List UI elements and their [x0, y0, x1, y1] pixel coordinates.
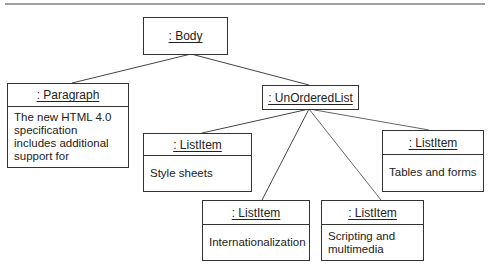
node-paragraph-text: The new HTML 4.0 specification includes … — [8, 107, 128, 168]
node-listitem-label: : ListItem — [232, 206, 281, 220]
node-listitem-text: Style sheets — [144, 156, 251, 185]
node-listitem-text: Tables and forms — [383, 155, 483, 184]
node-listitem-text: Internationalization — [203, 225, 309, 254]
edge-body-paragraph — [72, 54, 191, 83]
node-listitem-label: : ListItem — [348, 206, 397, 220]
node-paragraph: : Paragraph The new HTML 4.0 specificati… — [7, 83, 129, 168]
node-body: : Body — [143, 17, 228, 55]
node-listitem-stylesheets: : ListItem Style sheets — [143, 133, 252, 192]
edge-list-tables — [309, 109, 429, 130]
edge-list-stylesheets — [202, 109, 309, 133]
node-listitem-text: Scripting and multimedia — [322, 225, 423, 261]
edge-body-unorderedlist — [191, 54, 309, 85]
node-listitem-label: : ListItem — [409, 136, 458, 150]
node-paragraph-label: : Paragraph — [37, 88, 100, 102]
node-unorderedlist: : UnOrderedList — [262, 85, 359, 110]
node-listitem-tables: : ListItem Tables and forms — [382, 130, 484, 192]
node-listitem-scripting: : ListItem Scripting and multimedia — [321, 200, 424, 261]
node-listitem-intl: : ListItem Internationalization — [202, 200, 310, 261]
edge-list-intl — [262, 109, 309, 200]
node-listitem-label: : ListItem — [173, 138, 222, 152]
edge-list-scripting — [309, 109, 381, 200]
node-unorderedlist-label: : UnOrderedList — [268, 91, 353, 105]
node-body-label: : Body — [168, 29, 202, 43]
